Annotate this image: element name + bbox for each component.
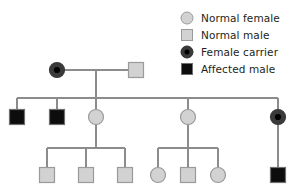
individual-II-2-affected-male — [50, 110, 65, 125]
individual-II-1-affected-male — [10, 110, 25, 125]
legend-item-affected-male: Affected male — [179, 60, 297, 77]
individual-III-4-normal-female — [151, 168, 166, 183]
normal-female-symbol-icon — [179, 9, 195, 26]
legend-item-label: Female carrier — [201, 46, 278, 58]
individual-II-5-female-carrier — [271, 110, 286, 125]
individual-symbols-group — [10, 63, 286, 183]
affected-male-symbol-icon — [271, 168, 286, 183]
normal-female-symbol-icon — [151, 168, 166, 183]
female-carrier-symbol-icon — [179, 43, 195, 60]
legend-item-label: Normal male — [201, 29, 269, 41]
legend-item-label: Affected male — [201, 63, 275, 75]
individual-III-6-normal-female — [211, 168, 226, 183]
individual-II-3-normal-female — [89, 110, 104, 125]
individual-III-2-normal-male — [79, 168, 94, 183]
individual-I-2-normal-male — [129, 63, 144, 78]
individual-III-1-normal-male — [40, 168, 55, 183]
individual-III-3-normal-male — [118, 168, 133, 183]
normal-female-symbol-icon — [89, 110, 104, 125]
normal-male-symbol-icon — [40, 168, 55, 183]
pedigree-chart: Normal female Normal male Female carrier… — [0, 0, 297, 190]
normal-female-symbol-icon — [181, 110, 196, 125]
normal-male-symbol-icon — [129, 63, 144, 78]
carrier-center-dot-icon — [54, 67, 60, 73]
normal-male-symbol-icon — [181, 168, 196, 183]
carrier-center-dot-icon — [275, 114, 281, 120]
normal-male-symbol-icon — [118, 168, 133, 183]
individual-II-4-normal-female — [181, 110, 196, 125]
affected-male-symbol-icon — [50, 110, 65, 125]
affected-male-symbol-icon — [179, 60, 195, 77]
normal-male-symbol-icon — [179, 26, 195, 43]
individual-III-7-affected-male — [271, 168, 286, 183]
normal-male-symbol-icon — [79, 168, 94, 183]
legend-item-normal-male: Normal male — [179, 26, 297, 43]
legend: Normal female Normal male Female carrier… — [179, 9, 297, 77]
individual-III-5-normal-male — [181, 168, 196, 183]
affected-male-symbol-icon — [10, 110, 25, 125]
legend-item-female-carrier: Female carrier — [179, 43, 297, 60]
legend-item-label: Normal female — [201, 12, 280, 24]
normal-female-symbol-icon — [211, 168, 226, 183]
legend-item-normal-female: Normal female — [179, 9, 297, 26]
individual-I-1-female-carrier — [50, 63, 65, 78]
